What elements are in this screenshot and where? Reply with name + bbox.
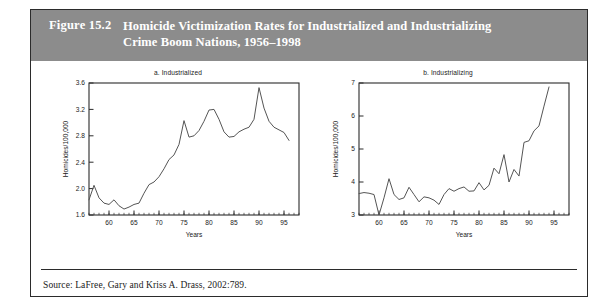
x-tick-label-a: 80 xyxy=(205,219,213,226)
figure-title-line1: Homicide Victimization Rates for Industr… xyxy=(123,19,491,33)
y-axis-title-b: Homicides/100,000 xyxy=(332,120,339,177)
plot-area: a. Industrialized 60657075808590951.62.0… xyxy=(31,61,587,261)
figure-title-line2: Crime Boom Nations, 1956–1998 xyxy=(123,34,491,50)
x-tick-label-b: 95 xyxy=(550,219,558,226)
x-tick-label-b: 80 xyxy=(475,219,483,226)
figure-title: Homicide Victimization Rates for Industr… xyxy=(123,18,491,50)
x-tick-label-a: 90 xyxy=(255,219,263,226)
chart-svg-b: 606570758085909534567YearsHomicides/100,… xyxy=(313,61,583,261)
x-tick-label-b: 60 xyxy=(375,219,383,226)
data-line-b xyxy=(359,87,549,215)
y-tick-label-b: 5 xyxy=(351,145,355,152)
x-tick-label-b: 65 xyxy=(400,219,408,226)
y-tick-label-b: 6 xyxy=(351,112,355,119)
x-tick-label-b: 85 xyxy=(500,219,508,226)
y-tick-label-a: 2.4 xyxy=(76,159,85,166)
x-tick-label-a: 75 xyxy=(180,219,188,226)
x-tick-label-b: 70 xyxy=(425,219,433,226)
y-tick-label-a: 3.6 xyxy=(76,79,85,86)
figure-number: Figure 15.2 xyxy=(49,18,123,33)
y-tick-label-a: 1.6 xyxy=(76,211,85,218)
x-tick-label-a: 95 xyxy=(280,219,288,226)
y-tick-label-a: 2.0 xyxy=(76,185,85,192)
figure-box: Figure 15.2 Homicide Victimization Rates… xyxy=(30,9,588,297)
chart-panel-industrializing: b. Industrializing 606570758085909534567… xyxy=(313,61,583,261)
source-divider xyxy=(41,269,577,270)
x-tick-label-a: 65 xyxy=(130,219,138,226)
y-tick-label-a: 3.2 xyxy=(76,106,85,113)
x-tick-label-b: 75 xyxy=(450,219,458,226)
data-line-a xyxy=(89,88,289,209)
x-axis-title-b: Years xyxy=(456,231,473,238)
y-tick-label-b: 3 xyxy=(351,211,355,218)
chart-panel-industrialized: a. Industrialized 60657075808590951.62.0… xyxy=(43,61,313,261)
x-tick-label-b: 90 xyxy=(525,219,533,226)
chart-svg-a: 60657075808590951.62.02.42.83.23.6YearsH… xyxy=(43,61,313,261)
y-tick-label-b: 7 xyxy=(351,79,355,86)
x-tick-label-a: 60 xyxy=(105,219,113,226)
figure-header-inner: Figure 15.2 Homicide Victimization Rates… xyxy=(49,18,575,50)
source-citation: Source: LaFree, Gary and Kriss A. Drass,… xyxy=(43,280,247,290)
x-tick-label-a: 85 xyxy=(230,219,238,226)
y-axis-title-a: Homicides/100,000 xyxy=(62,120,69,177)
x-tick-label-a: 70 xyxy=(155,219,163,226)
y-tick-label-b: 4 xyxy=(351,178,355,185)
x-axis-title-a: Years xyxy=(186,231,203,238)
figure-header-band: Figure 15.2 Homicide Victimization Rates… xyxy=(31,10,587,61)
y-tick-label-a: 2.8 xyxy=(76,132,85,139)
